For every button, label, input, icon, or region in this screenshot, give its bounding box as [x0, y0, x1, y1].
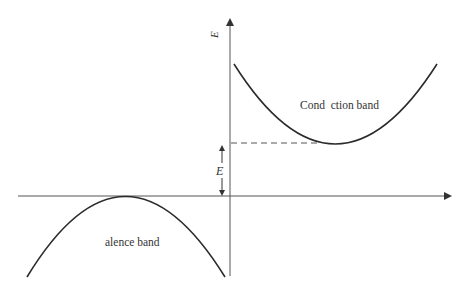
band-diagram-svg: E E Cond ction band alence band	[0, 0, 468, 293]
y-axis-label: E	[208, 31, 220, 39]
conduction-band-label: Cond ction band	[300, 99, 379, 111]
gap-energy-label: E	[215, 164, 224, 178]
band-diagram: E E Cond ction band alence band	[0, 0, 468, 293]
valence-band-label: alence band	[105, 236, 160, 248]
